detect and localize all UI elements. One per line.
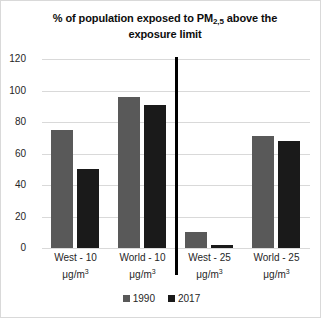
bar-1990-2[interactable]: [185, 232, 207, 248]
bar-2017-0[interactable]: [77, 169, 99, 248]
x-axis-label-name: World - 10: [120, 252, 166, 263]
bar-2017-3[interactable]: [278, 141, 300, 248]
x-axis-label-name: West - 10: [54, 252, 97, 263]
bar-1990-0[interactable]: [51, 130, 73, 248]
x-axis-label-unit: μg/m3: [176, 265, 243, 282]
y-tick-label-20: 20: [0, 211, 26, 222]
bar-2017-1[interactable]: [144, 105, 166, 248]
chart-title-line2: exposure limit: [128, 28, 201, 40]
x-axis-label-unit: μg/m3: [42, 265, 109, 282]
x-axis-label-unit-exponent: 3: [219, 268, 223, 275]
chart-title-line1-part1: % of population exposed to PM: [53, 12, 213, 24]
y-tick-label-60: 60: [0, 148, 26, 159]
group-divider-line: [175, 57, 178, 275]
chart-title-subscript: 2,5: [213, 17, 224, 26]
x-axis-label-unit-exponent: 3: [286, 268, 290, 275]
x-axis-label-0: West - 10μg/m3: [42, 251, 109, 282]
y-tick-label-80: 80: [0, 116, 26, 127]
bar-group: [243, 59, 310, 248]
bar-group: [42, 59, 109, 248]
legend-item-1990[interactable]: 1990: [123, 293, 155, 304]
legend-label: 2017: [178, 293, 200, 304]
chart-title: % of population exposed to PM2,5 above t…: [29, 11, 301, 42]
legend-item-2017[interactable]: 2017: [168, 293, 200, 304]
bar-1990-1[interactable]: [118, 97, 140, 248]
x-axis: West - 10μg/m3World - 10μg/m3West - 25μg…: [42, 251, 310, 287]
x-axis-label-unit-exponent: 3: [152, 268, 156, 275]
x-axis-label-name: World - 25: [254, 252, 300, 263]
x-axis-label-name: West - 25: [188, 252, 231, 263]
y-tick-label-40: 40: [0, 179, 26, 190]
x-axis-label-1: World - 10μg/m3: [109, 251, 176, 282]
y-tick-label-0: 0: [0, 242, 26, 253]
chart-legend: 19902017: [1, 293, 321, 304]
y-tick-label-120: 120: [0, 53, 26, 64]
bar-1990-3[interactable]: [252, 136, 274, 248]
bar-2017-2[interactable]: [211, 245, 233, 248]
legend-label: 1990: [133, 293, 155, 304]
bar-group: [109, 59, 176, 248]
chart-title-line1-part2: above the: [224, 12, 277, 24]
legend-swatch-icon: [168, 295, 175, 302]
x-axis-label-unit-exponent: 3: [85, 268, 89, 275]
bar-group: [176, 59, 243, 248]
y-tick-label-100: 100: [0, 85, 26, 96]
x-axis-label-unit: μg/m3: [243, 265, 310, 282]
x-axis-label-2: West - 25μg/m3: [176, 251, 243, 282]
x-axis-label-unit: μg/m3: [109, 265, 176, 282]
x-axis-label-3: World - 25μg/m3: [243, 251, 310, 282]
chart-container: % of population exposed to PM2,5 above t…: [0, 0, 321, 318]
legend-swatch-icon: [123, 295, 130, 302]
